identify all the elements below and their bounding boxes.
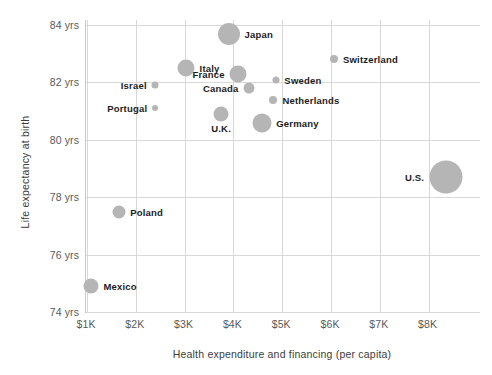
x-axis-title: Health expenditure and financing (per ca… <box>85 348 479 360</box>
gridline-vertical <box>331 20 332 313</box>
data-point-bubble[interactable] <box>112 205 125 218</box>
y-axis-tick-label: 74 yrs <box>0 306 79 318</box>
data-point-bubble[interactable] <box>218 23 240 45</box>
data-point-label: Germany <box>276 117 319 128</box>
data-point-bubble[interactable] <box>269 96 277 104</box>
data-point-bubble[interactable] <box>152 82 159 89</box>
gridline-vertical <box>429 20 430 313</box>
scatter-chart: JapanSwitzerlandIsraelItalyFranceSwedenC… <box>0 0 492 375</box>
x-axis-tick-label: $3K <box>174 318 193 330</box>
y-axis-tick-label: 82 yrs <box>0 76 79 88</box>
data-point-label: U.S. <box>405 172 424 183</box>
x-axis-tick-label: $6K <box>321 318 340 330</box>
data-point-label: Netherlands <box>282 94 339 105</box>
data-point-label: Mexico <box>103 281 136 292</box>
gridline-vertical <box>136 20 137 313</box>
data-point-label: U.K. <box>211 123 231 134</box>
data-point-bubble[interactable] <box>230 65 247 82</box>
data-point-bubble[interactable] <box>152 105 158 111</box>
data-point-bubble[interactable] <box>272 76 279 83</box>
data-point-label: Canada <box>203 83 239 94</box>
data-point-bubble[interactable] <box>213 106 228 121</box>
data-point-label: Switzerland <box>343 54 398 65</box>
data-point-bubble[interactable] <box>252 113 271 132</box>
data-point-bubble[interactable] <box>429 161 462 194</box>
data-point-bubble[interactable] <box>330 55 338 63</box>
x-axis-tick-label: $4K <box>223 318 242 330</box>
y-axis-tick-label: 80 yrs <box>0 134 79 146</box>
x-axis-tick-label: $8K <box>418 318 437 330</box>
y-axis-tick-label: 76 yrs <box>0 249 79 261</box>
x-axis-tick-label: $7K <box>369 318 388 330</box>
data-point-label: Poland <box>130 206 163 217</box>
plot-area: JapanSwitzerlandIsraelItalyFranceSwedenC… <box>85 20 479 313</box>
x-axis-tick-label: $2K <box>125 318 144 330</box>
data-point-bubble[interactable] <box>244 83 255 94</box>
data-point-label: Israel <box>121 80 147 91</box>
y-axis-tick-label: 84 yrs <box>0 19 79 31</box>
y-axis-title: Life expectancy at birth <box>19 52 31 292</box>
y-axis-tick-label: 78 yrs <box>0 191 79 203</box>
x-axis-tick-label: $5K <box>272 318 291 330</box>
x-axis-tick-label: $1K <box>77 318 96 330</box>
data-point-bubble[interactable] <box>83 279 98 294</box>
gridline-vertical <box>282 20 283 313</box>
data-point-label: Portugal <box>107 103 147 114</box>
gridline-vertical <box>87 20 88 313</box>
data-point-label: France <box>192 68 224 79</box>
data-point-label: Sweden <box>284 74 321 85</box>
gridline-vertical <box>233 20 234 313</box>
data-point-label: Japan <box>245 28 273 39</box>
